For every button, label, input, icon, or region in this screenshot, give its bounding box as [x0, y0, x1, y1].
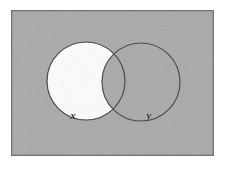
x-only-shaded-region: [11, 10, 214, 156]
venn-diagram-figure: x y: [0, 0, 227, 169]
venn-diagram-canvas: x y: [0, 0, 227, 169]
set-x-label: x: [69, 109, 76, 121]
set-y-label: y: [145, 109, 152, 121]
